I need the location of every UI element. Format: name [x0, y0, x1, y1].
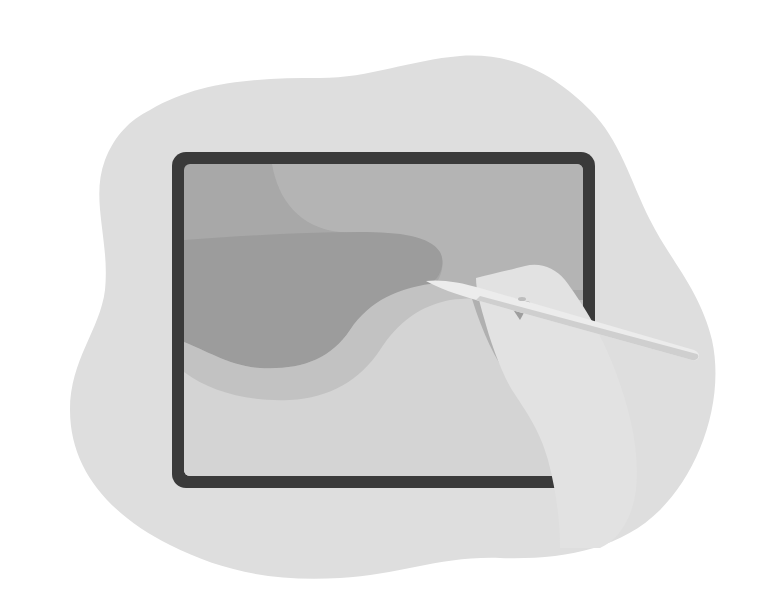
tablet-drawing-illustration — [0, 0, 777, 609]
stylus-clip — [518, 297, 526, 301]
illustration-canvas — [0, 0, 777, 609]
